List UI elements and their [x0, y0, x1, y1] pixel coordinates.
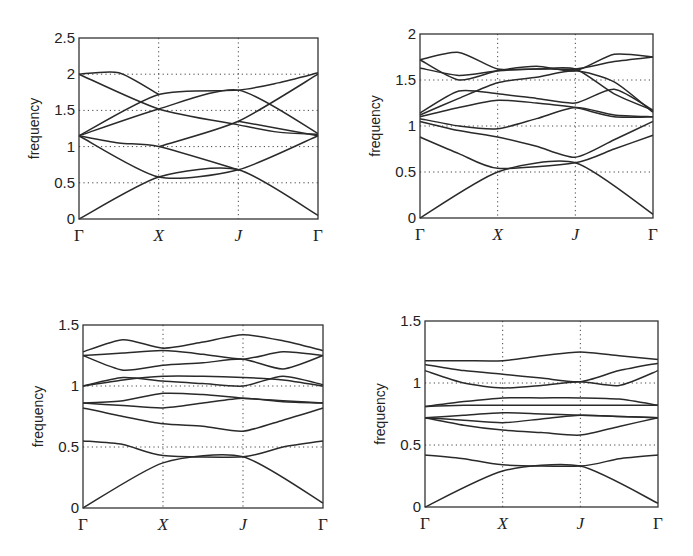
x-tick-label: Γ [318, 515, 328, 534]
y-axis-label: frequency [26, 98, 42, 159]
x-tick-label: Γ [420, 514, 430, 533]
band-curve-band2 [83, 441, 323, 457]
x-tick-label: X [496, 514, 508, 533]
x-tick-label: X [152, 226, 164, 245]
band-curve-band4 [83, 398, 323, 408]
band-curve-band9 [238, 121, 318, 135]
band-curve-band1 [425, 465, 658, 507]
y-tick-label: 0.5 [54, 174, 75, 191]
band-curve-band9 [425, 363, 658, 382]
band-curve-band9 [83, 351, 323, 360]
y-tick-label: 1 [408, 117, 416, 134]
y-tick-label: 0 [67, 210, 75, 227]
y-tick-label: 1 [71, 377, 79, 394]
x-tick-label: Γ [415, 225, 425, 244]
band-curve-band5 [83, 393, 323, 403]
y-tick-label: 0 [413, 498, 421, 515]
band-curve-band7 [79, 74, 318, 134]
x-tick-label: Γ [313, 226, 323, 245]
x-tick-label: X [491, 225, 503, 244]
y-tick-label: 0.5 [395, 163, 416, 180]
y-tick-label: 0.5 [400, 436, 421, 453]
band-curve-band10 [83, 335, 323, 352]
x-tick-label: X [157, 515, 169, 534]
figure-canvas: 00.511.522.5ΓXJΓfrequency00.511.52ΓXJΓfr… [0, 0, 693, 556]
x-tick-label: Γ [78, 515, 88, 534]
chart-panel-2: 00.511.52ΓXJΓfrequency [367, 25, 658, 244]
y-tick-label: 0 [408, 209, 416, 226]
y-tick-label: 1.5 [58, 316, 79, 333]
y-tick-label: 2 [408, 25, 416, 42]
band-curve-band10 [425, 352, 658, 361]
y-axis-label: frequency [367, 95, 383, 156]
y-tick-label: 1 [67, 138, 75, 155]
band-curve-band3 [83, 408, 323, 431]
y-tick-label: 0.5 [58, 438, 79, 455]
chart-panel-4: 00.511.5ΓXJΓfrequency [372, 312, 663, 533]
x-tick-label: Γ [648, 225, 658, 244]
x-tick-label: J [235, 226, 244, 245]
band-curve-band8 [83, 356, 323, 371]
y-tick-label: 0 [71, 499, 79, 516]
x-tick-label: J [577, 514, 586, 533]
y-tick-label: 2 [67, 65, 75, 82]
chart-panel-1: 00.511.522.5ΓXJΓfrequency [26, 29, 323, 245]
x-tick-label: J [572, 225, 581, 244]
band-curve-band6 [83, 376, 323, 386]
band-curve-band8 [79, 72, 159, 95]
band-curve-band1 [83, 455, 323, 508]
band-curve-band6 [79, 73, 318, 136]
y-tick-label: 1 [413, 374, 421, 391]
band-curve-band6 [425, 405, 658, 406]
y-tick-label: 1.5 [400, 312, 421, 329]
y-axis-label: frequency [372, 383, 388, 444]
band-curve-band1 [420, 161, 653, 218]
x-tick-label: Γ [74, 226, 84, 245]
band-curve-band6 [420, 89, 653, 113]
band-curve-band9 [420, 54, 653, 80]
y-axis-label: frequency [30, 386, 46, 447]
y-tick-label: 2.5 [54, 29, 75, 46]
chart-panel-3: 00.511.5ΓXJΓfrequency [30, 316, 328, 534]
y-tick-label: 1.5 [54, 101, 75, 118]
y-tick-label: 1.5 [395, 71, 416, 88]
band-curve-band5 [425, 413, 658, 418]
band-curve-band1 [79, 168, 318, 219]
x-tick-label: J [239, 515, 248, 534]
x-tick-label: Γ [653, 514, 663, 533]
band-curve-band8 [425, 371, 658, 388]
